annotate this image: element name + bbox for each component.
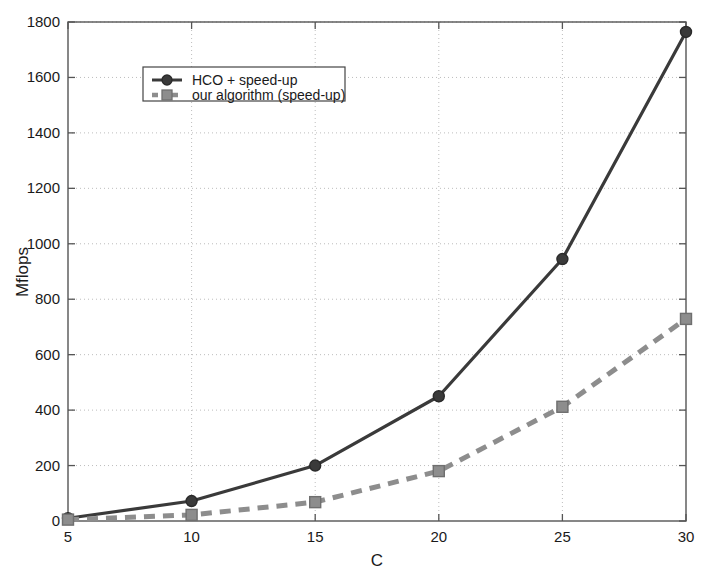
chart-figure: 51015202530 0200400600800100012001400160…	[0, 0, 708, 581]
x-tick-label: 10	[183, 528, 200, 545]
y-tick-label: 0	[52, 512, 60, 529]
x-axis-title: C	[371, 551, 383, 570]
data-point-marker	[557, 401, 568, 412]
data-point-marker	[186, 496, 197, 507]
x-tick-label: 5	[64, 528, 72, 545]
y-tick-label: 800	[35, 290, 60, 307]
series-line	[68, 319, 686, 520]
y-tick-label: 1800	[27, 13, 60, 30]
line-chart: 51015202530 0200400600800100012001400160…	[0, 0, 708, 581]
y-tick-label: 1600	[27, 68, 60, 85]
x-tick-label: 25	[554, 528, 571, 545]
legend-marker-square	[162, 90, 172, 100]
y-tick-label: 400	[35, 401, 60, 418]
x-tick-label: 15	[307, 528, 324, 545]
legend-marker-circle	[162, 75, 172, 85]
y-tick-label: 1400	[27, 124, 60, 141]
chart-legend: HCO + speed-upour algorithm (speed-up)	[143, 67, 345, 103]
series-line	[68, 32, 686, 518]
data-point-marker	[433, 391, 444, 402]
legend-label-2: our algorithm (speed-up)	[192, 87, 345, 103]
data-point-marker	[63, 514, 74, 525]
x-tick-label: 20	[430, 528, 447, 545]
data-point-marker	[557, 254, 568, 265]
y-tick-label: 200	[35, 457, 60, 474]
y-tick-label: 1200	[27, 179, 60, 196]
x-tick-label: 30	[678, 528, 695, 545]
data-series-2	[63, 313, 692, 525]
y-axis-title: Mflops	[13, 247, 32, 297]
y-tick-label: 600	[35, 346, 60, 363]
legend-label-1: HCO + speed-up	[192, 72, 298, 88]
data-point-marker	[310, 497, 321, 508]
data-point-marker	[681, 313, 692, 324]
data-point-marker	[681, 26, 692, 37]
x-tick-labels: 51015202530	[64, 528, 695, 545]
data-point-marker	[433, 466, 444, 477]
data-point-marker	[310, 460, 321, 471]
data-point-marker	[186, 509, 197, 520]
